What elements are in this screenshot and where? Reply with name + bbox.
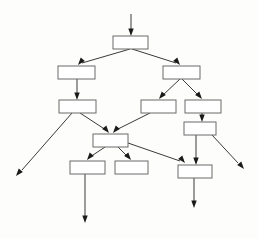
arrowhead-icon	[173, 58, 180, 65]
node-n2[interactable]	[58, 66, 95, 79]
flowchart-canvas	[0, 0, 258, 239]
node-n4[interactable]	[59, 100, 96, 113]
edge	[74, 79, 79, 100]
edge-line	[82, 49, 130, 63]
arrowhead-icon	[82, 216, 87, 224]
node-box[interactable]	[113, 36, 148, 49]
arrowhead-icon	[128, 29, 133, 37]
edge	[182, 79, 202, 99]
edge-line	[22, 113, 72, 170]
edge	[132, 49, 180, 65]
node-box[interactable]	[59, 100, 96, 113]
edge	[159, 79, 180, 99]
node-n5[interactable]	[141, 100, 176, 113]
node-box[interactable]	[141, 100, 176, 113]
edge	[78, 49, 130, 65]
node-n11[interactable]	[178, 165, 212, 178]
edge-line	[212, 135, 238, 163]
arrowhead-icon	[113, 126, 120, 133]
node-box[interactable]	[70, 161, 105, 174]
arrowhead-icon	[178, 156, 185, 163]
arrowhead-icon	[193, 158, 198, 166]
node-n8[interactable]	[93, 134, 128, 147]
edge-line	[116, 113, 150, 130]
edge	[87, 147, 105, 160]
node-box[interactable]	[115, 161, 148, 174]
edge-line	[80, 113, 106, 130]
node-box[interactable]	[58, 66, 95, 79]
node-n3[interactable]	[163, 66, 200, 79]
edge	[193, 135, 198, 165]
nodes-layer	[58, 36, 221, 178]
node-box[interactable]	[178, 165, 212, 178]
node-n7[interactable]	[184, 122, 216, 135]
node-box[interactable]	[185, 100, 221, 113]
node-box[interactable]	[163, 66, 200, 79]
arrowhead-icon	[199, 115, 204, 123]
edge	[199, 113, 204, 122]
edge	[82, 174, 87, 223]
edge	[212, 135, 244, 169]
edge	[80, 113, 109, 133]
edge	[128, 14, 133, 36]
edge-line	[132, 49, 176, 63]
arrowhead-icon	[78, 58, 85, 65]
arrowhead-icon	[74, 93, 79, 101]
edge	[113, 113, 150, 133]
arrowhead-icon	[87, 153, 94, 160]
edge	[191, 178, 196, 208]
edge-line	[182, 79, 199, 96]
node-n6[interactable]	[185, 100, 221, 113]
flowchart-diagram	[0, 0, 258, 239]
arrowhead-icon	[102, 126, 109, 133]
edge-line	[162, 79, 180, 96]
edge-line	[128, 143, 180, 161]
node-box[interactable]	[93, 134, 128, 147]
arrowhead-icon	[191, 201, 196, 209]
edge	[128, 143, 185, 163]
node-box[interactable]	[184, 122, 216, 135]
edge	[16, 113, 72, 176]
edge	[118, 147, 131, 160]
node-n10[interactable]	[115, 161, 148, 174]
node-n1[interactable]	[113, 36, 148, 49]
node-n9[interactable]	[70, 161, 105, 174]
arrowhead-icon	[159, 92, 166, 99]
